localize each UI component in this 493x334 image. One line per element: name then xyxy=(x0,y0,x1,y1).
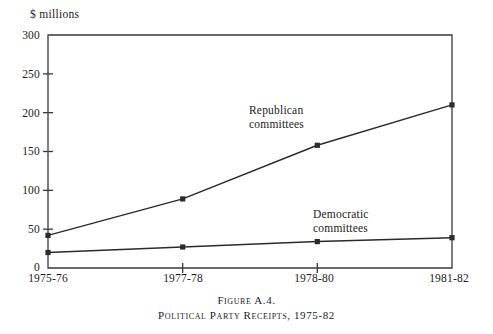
series-0-point-3 xyxy=(449,102,454,107)
series-line-0 xyxy=(48,105,452,236)
chart-series-lines xyxy=(45,102,454,255)
series-0-point-0 xyxy=(45,233,50,238)
series-1-point-2 xyxy=(315,239,320,244)
figure-caption-title: Political Party Receipts, 1975-82 xyxy=(0,309,493,321)
series-line-1 xyxy=(48,238,452,253)
chart-frame xyxy=(48,35,452,268)
figure-caption-number: Figure A.4. xyxy=(0,294,493,306)
figure-container: $ millions 300 250 200 150 100 50 0 1975… xyxy=(0,0,493,334)
chart-axes xyxy=(48,35,452,268)
series-1-point-1 xyxy=(180,244,185,249)
series-0-point-2 xyxy=(315,143,320,148)
series-1-point-3 xyxy=(449,235,454,240)
series-0-point-1 xyxy=(180,196,185,201)
chart-plot-area: $ millions 300 250 200 150 100 50 0 1975… xyxy=(0,0,493,334)
chart-svg xyxy=(0,0,493,334)
series-1-point-0 xyxy=(45,250,50,255)
